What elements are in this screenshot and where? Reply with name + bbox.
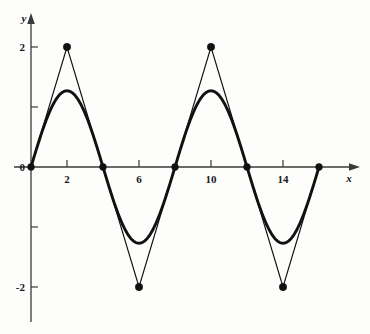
- x-axis-label: x: [345, 172, 352, 184]
- vertex-dot-8-0: [172, 164, 179, 171]
- y-axis-label: y: [20, 12, 27, 24]
- y-tick-label-2: 2: [20, 41, 26, 53]
- triangle-wave-fourier-chart: 2 0 -2 2 6 10 14 y x: [0, 0, 370, 334]
- vertex-dot-12-0: [244, 164, 251, 171]
- x-axis-arrowhead: [349, 163, 360, 170]
- vertex-dot-2-2: [63, 43, 70, 50]
- chart-figure: 2 0 -2 2 6 10 14 y x: [0, 0, 370, 334]
- vertex-dot-4-0: [100, 164, 107, 171]
- x-tick-label-14: 14: [278, 173, 290, 185]
- x-tick-label-10: 10: [206, 173, 218, 185]
- y-tick-label-0: 0: [20, 161, 26, 173]
- x-tick-label-6: 6: [136, 173, 142, 185]
- vertex-dot-14-neg2: [279, 283, 286, 290]
- vertex-dot-16-0: [316, 164, 323, 171]
- vertex-dot-10-2: [207, 43, 214, 50]
- vertex-dot-6-neg2: [135, 283, 142, 290]
- y-tick-label-minus-2: -2: [16, 281, 26, 293]
- vertex-dot-0-0: [28, 164, 35, 171]
- x-tick-label-2: 2: [64, 173, 70, 185]
- y-axis-arrowhead: [27, 13, 35, 24]
